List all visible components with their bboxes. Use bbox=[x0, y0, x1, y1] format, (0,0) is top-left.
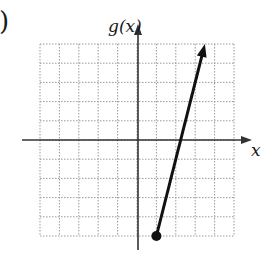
closed-endpoint-dot bbox=[151, 231, 161, 241]
y-axis-label: g(x) bbox=[108, 16, 142, 36]
part-label: ) bbox=[0, 6, 9, 36]
graph: ) g(x) x bbox=[0, 0, 270, 267]
arrowhead-icon bbox=[197, 44, 207, 58]
function-line bbox=[156, 55, 202, 236]
plot-line bbox=[151, 44, 206, 241]
x-axis-label: x bbox=[251, 140, 261, 160]
